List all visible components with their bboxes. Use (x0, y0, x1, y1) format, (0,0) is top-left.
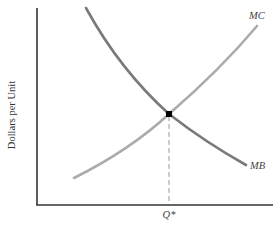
mc-label: MC (248, 10, 266, 21)
economics-diagram: Dollars per Unit MC MB Q* (0, 0, 277, 225)
equilibrium-point (166, 111, 172, 117)
q-star-label: Q* (163, 209, 177, 220)
mb-label: MB (249, 160, 266, 171)
y-axis-label: Dollars per Unit (6, 81, 17, 149)
mb-curve (86, 8, 246, 165)
